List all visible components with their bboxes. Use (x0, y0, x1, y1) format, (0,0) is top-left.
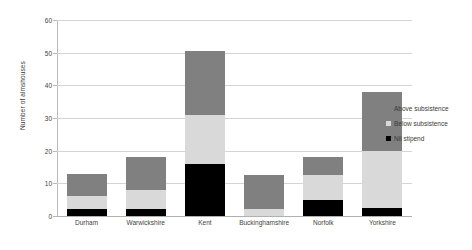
x-tick-label: Kent (198, 219, 211, 226)
legend-swatch-icon (386, 106, 391, 111)
bar-segment[interactable] (67, 209, 107, 216)
gridline (57, 118, 412, 119)
x-tick-label: Warwickshire (127, 219, 165, 226)
bar-segment[interactable] (126, 157, 166, 190)
chart-legend: Above subsistenceBelow subsistenceNil st… (386, 104, 472, 149)
y-tick-label: 60 (20, 17, 52, 24)
y-axis-tick-labels: 0102030405060 (14, 20, 52, 216)
bar-segment[interactable] (303, 175, 343, 200)
gridline (57, 53, 412, 54)
y-tick-mark (53, 20, 57, 21)
legend-item[interactable]: Above subsistence (386, 104, 472, 112)
y-tick-mark (53, 85, 57, 86)
legend-label: Below subsistence (394, 120, 448, 127)
legend-item[interactable]: Below subsistence (386, 119, 472, 127)
legend-label: Above subsistence (394, 105, 449, 112)
legend-swatch-icon (386, 136, 391, 141)
y-tick-label: 30 (20, 115, 52, 122)
x-tick-label: Norfolk (313, 219, 334, 226)
gridline (57, 20, 412, 21)
gridline (57, 85, 412, 86)
legend-label: Nil stipend (394, 135, 424, 142)
bar-group[interactable] (126, 157, 166, 216)
bar-segment[interactable] (244, 209, 284, 216)
bar-segment[interactable] (185, 51, 225, 115)
legend-item[interactable]: Nil stipend (386, 134, 472, 142)
bar-group[interactable] (303, 157, 343, 216)
bar-segment[interactable] (126, 209, 166, 216)
plot-area (57, 20, 412, 216)
legend-swatch-icon (386, 121, 391, 126)
bar-segment[interactable] (185, 115, 225, 164)
bar-segment[interactable] (303, 200, 343, 216)
bar-segment[interactable] (185, 164, 225, 216)
x-tick-label: Durham (75, 219, 98, 226)
chart-container: Number of almshouses 0102030405060 Durha… (0, 0, 472, 250)
bar-segment[interactable] (67, 174, 107, 197)
y-tick-mark (53, 118, 57, 119)
y-tick-mark (53, 216, 57, 217)
y-tick-label: 10 (20, 180, 52, 187)
x-axis-line (57, 216, 412, 217)
bar-segment[interactable] (126, 190, 166, 210)
gridline (57, 151, 412, 152)
gridline (57, 183, 412, 184)
bar-group[interactable] (185, 51, 225, 216)
bar-segment[interactable] (244, 175, 284, 209)
y-tick-label: 50 (20, 49, 52, 56)
x-tick-label: Yorkshire (369, 219, 396, 226)
x-axis-tick-labels: DurhamWarwickshireKentBuckinghamshireNor… (57, 219, 412, 235)
y-tick-label: 0 (20, 213, 52, 220)
bar-group[interactable] (244, 175, 284, 216)
bar-segment[interactable] (362, 151, 402, 208)
y-tick-mark (53, 151, 57, 152)
x-tick-label: Buckinghamshire (239, 219, 289, 226)
y-tick-mark (53, 53, 57, 54)
y-tick-label: 20 (20, 147, 52, 154)
bar-segment[interactable] (67, 196, 107, 209)
bar-segment[interactable] (362, 208, 402, 216)
bar-group[interactable] (67, 174, 107, 216)
y-tick-label: 40 (20, 82, 52, 89)
bar-segment[interactable] (303, 157, 343, 175)
y-tick-mark (53, 183, 57, 184)
